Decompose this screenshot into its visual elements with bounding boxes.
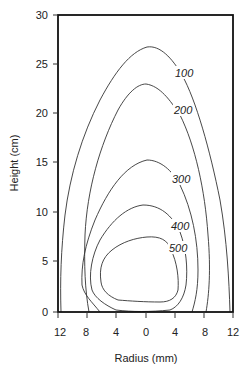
- contour-label-200: 200: [173, 104, 193, 116]
- x-tick-label: 12: [227, 326, 239, 338]
- y-tick-label: 0: [42, 306, 48, 318]
- y-axis: 30 25 20 15 10 5 0 Height (cm): [8, 9, 58, 318]
- x-tick-label: 0: [143, 326, 149, 338]
- x-tick-label: 12: [54, 326, 66, 338]
- y-tick-label: 15: [36, 156, 48, 168]
- x-tick-label: 4: [113, 326, 119, 338]
- contour-200: [85, 84, 210, 312]
- contour-label-100: 100: [175, 67, 194, 79]
- x-tick-label: 4: [172, 326, 178, 338]
- x-tick-label: 8: [83, 326, 89, 338]
- y-tick-label: 5: [42, 255, 48, 267]
- contour-label-400: 400: [171, 220, 190, 232]
- plot-frame: [58, 15, 233, 312]
- contour-label-group: 100 200 300 400 500: [168, 66, 194, 254]
- contour-500: [100, 237, 178, 302]
- contour-label-300: 300: [172, 173, 191, 185]
- y-tick-label: 25: [36, 58, 48, 70]
- contour-100: [61, 47, 230, 312]
- x-tick-label: 8: [202, 326, 208, 338]
- x-axis: 12 8 4 0 4 8 12 Radius (mm): [54, 312, 239, 364]
- contour-lines: [61, 47, 230, 312]
- y-tick-label: 10: [36, 206, 48, 218]
- contour-chart: 100 200 300 400 500 30 25 20 15 10 5 0 H…: [0, 0, 249, 368]
- contour-label-500: 500: [169, 242, 188, 254]
- x-axis-title: Radius (mm): [115, 352, 178, 364]
- y-axis-title: Height (cm): [8, 135, 20, 192]
- y-tick-label: 30: [36, 9, 48, 21]
- y-tick-label: 20: [36, 107, 48, 119]
